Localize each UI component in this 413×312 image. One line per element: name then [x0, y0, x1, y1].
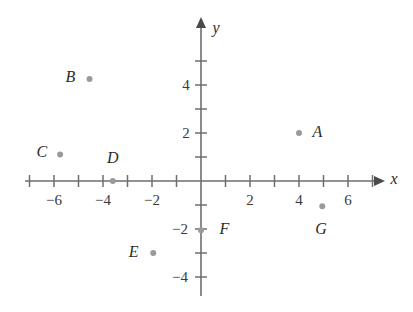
coordinate-plane-canvas — [0, 0, 413, 312]
x-tick-label: −4 — [95, 193, 111, 208]
y-tick-label: −4 — [172, 270, 188, 285]
y-tick-label: 4 — [182, 78, 190, 93]
x-tick-label: 2 — [246, 193, 254, 208]
y-tick-label: 2 — [182, 126, 190, 141]
y-tick-label: −2 — [172, 222, 188, 237]
point-label-e: E — [129, 244, 139, 260]
x-tick-label: −6 — [46, 193, 62, 208]
point-label-f: F — [219, 221, 229, 237]
point-label-a: A — [312, 124, 322, 140]
data-point-e[interactable] — [150, 250, 156, 256]
plotted-points — [57, 76, 325, 256]
x-axis-arrow-icon — [374, 176, 385, 186]
y-axis-label: y — [212, 20, 219, 36]
y-axis-arrow-icon — [196, 17, 206, 28]
data-point-c[interactable] — [57, 152, 63, 158]
x-tick-label: 4 — [295, 193, 303, 208]
point-label-d: D — [107, 150, 119, 166]
point-label-b: B — [66, 69, 76, 85]
point-label-g: G — [315, 221, 327, 237]
coordinate-plane-figure: −6−4−224642−2−4ABCDEFG x y — [0, 0, 413, 312]
x-tick-label: −2 — [144, 193, 160, 208]
point-label-c: C — [36, 144, 47, 160]
x-axis-label: x — [390, 171, 397, 187]
data-point-g[interactable] — [319, 203, 325, 209]
x-tick-label: 6 — [344, 193, 352, 208]
data-point-b[interactable] — [87, 76, 93, 82]
data-point-a[interactable] — [296, 130, 302, 136]
data-point-d[interactable] — [110, 178, 116, 184]
data-point-f[interactable] — [198, 227, 204, 233]
